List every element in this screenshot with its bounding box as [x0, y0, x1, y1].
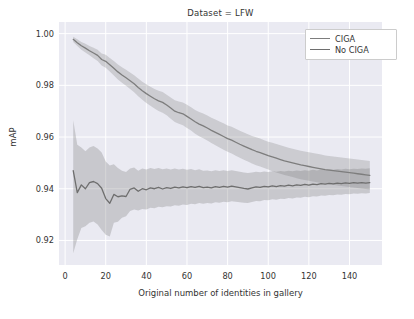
x-tick-label: 40 — [126, 271, 166, 281]
legend-swatch-ciga — [310, 38, 330, 39]
chart-title: Dataset = LFW — [59, 8, 382, 18]
x-axis-ticks: 020406080100120140 — [59, 271, 382, 285]
legend-item-no-ciga[interactable]: No CIGA — [310, 44, 392, 55]
x-tick-label: 20 — [86, 271, 126, 281]
confidence-bands — [73, 37, 370, 254]
y-tick-label: 1.00 — [4, 29, 54, 39]
x-tick-label: 80 — [208, 271, 248, 281]
x-tick-label: 0 — [45, 271, 85, 281]
x-tick-label: 60 — [167, 271, 207, 281]
legend-item-ciga[interactable]: CIGA — [310, 33, 392, 44]
chart-legend: CIGA No CIGA — [305, 29, 397, 60]
x-axis-label: Original number of identities in gallery — [59, 288, 382, 298]
y-tick-label: 0.92 — [4, 235, 54, 245]
legend-swatch-no-ciga — [310, 49, 330, 50]
y-axis-label: mAP — [8, 117, 18, 157]
y-tick-label: 0.94 — [4, 184, 54, 194]
legend-label-ciga: CIGA — [335, 34, 355, 44]
x-tick-label: 100 — [248, 271, 288, 281]
y-tick-label: 0.98 — [4, 80, 54, 90]
x-tick-label: 120 — [289, 271, 329, 281]
legend-label-no-ciga: No CIGA — [335, 45, 369, 55]
chart-figure: Dataset = LFW 0.920.940.960.981.00 02040… — [0, 0, 414, 319]
x-tick-label: 140 — [330, 271, 370, 281]
